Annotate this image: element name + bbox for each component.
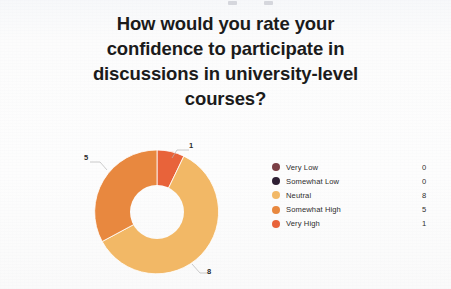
legend-swatch-somewhat-high-icon [272,206,280,214]
page-title-line-1: How would you rate your [0,11,451,36]
page-title-line-4: courses? [0,86,451,111]
donut-chart: 1 5 8 [60,140,260,289]
legend-item-neutral[interactable]: Neutral 8 [272,188,444,202]
legend-swatch-neutral-icon [272,191,280,199]
scan-edge-artifacts [0,0,451,9]
legend-label-somewhat-low: Somewhat Low [286,177,422,186]
donut-chart-svg [60,140,260,289]
chart-page: How would you rate your confidence to pa… [0,0,451,289]
data-label-neutral: 8 [207,267,211,276]
legend-item-very-low[interactable]: Very Low 0 [272,160,444,174]
legend-swatch-somewhat-low-icon [272,177,280,185]
page-title-line-3: discussions in university-level [0,61,451,86]
legend-swatch-very-high-icon [272,220,280,228]
legend-item-very-high[interactable]: Very High 1 [272,217,444,231]
page-title-line-2: confidence to participate in [0,36,451,61]
legend-value-neutral: 8 [422,191,444,200]
data-label-very-high: 1 [189,141,193,150]
legend-swatch-very-low-icon [272,163,280,171]
legend-label-very-low: Very Low [286,163,422,172]
legend-value-somewhat-high: 5 [422,205,444,214]
leader-line-neutral [192,264,207,273]
legend-item-somewhat-low[interactable]: Somewhat Low 0 [272,174,444,188]
leader-line-somewhat-high [90,162,107,170]
legend-label-neutral: Neutral [286,191,422,200]
legend-value-somewhat-low: 0 [422,177,444,186]
legend-label-very-high: Very High [286,219,422,228]
chart-legend: Very Low 0 Somewhat Low 0 Neutral 8 Some… [272,160,444,231]
legend-item-somewhat-high[interactable]: Somewhat High 5 [272,203,444,217]
data-label-somewhat-high: 5 [84,153,88,162]
legend-label-somewhat-high: Somewhat High [286,205,422,214]
legend-value-very-low: 0 [422,163,444,172]
page-title: How would you rate your confidence to pa… [0,11,451,111]
legend-value-very-high: 1 [422,219,444,228]
